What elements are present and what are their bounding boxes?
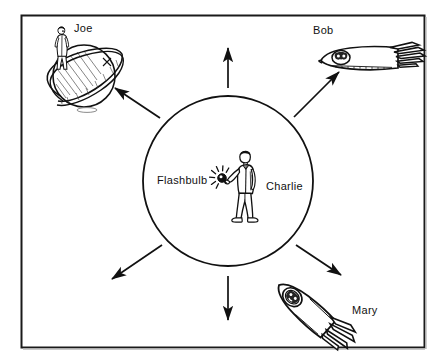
rocket-fin-5 [398,64,418,67]
flashbulb-label: Flashbulb [157,174,207,186]
mary-label: Mary [352,304,378,316]
figure-diagram: Flashbulb Charlie [0,0,447,363]
diagram-canvas: Flashbulb Charlie [0,0,447,363]
charlie-label: Charlie [266,180,303,192]
joe-label: Joe [74,22,93,34]
bob-label: Bob [313,24,333,36]
